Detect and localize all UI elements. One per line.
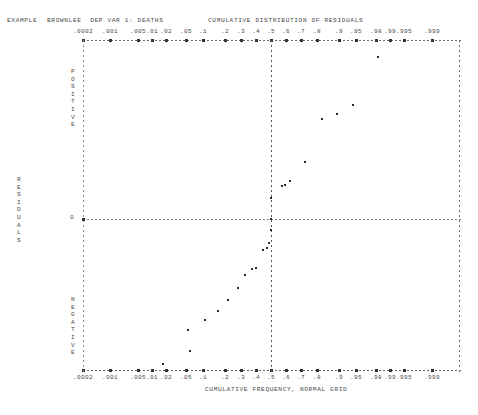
x-tick-bottom-9: .4: [252, 374, 260, 381]
x-tick-top-12: .7: [297, 28, 305, 35]
x-tick-bottom-0: .0002: [73, 374, 93, 381]
data-point: [336, 113, 338, 115]
data-point: [284, 184, 286, 186]
data-point: [352, 104, 354, 106]
x-tick-top-18: .995: [396, 28, 412, 35]
x-tick-bottom-12: .7: [297, 374, 305, 381]
x-tick-bottom-1: .001: [102, 374, 118, 381]
data-point: [268, 242, 270, 244]
x-tick-top-19: .999: [424, 28, 440, 35]
plot-grid: [0, 0, 478, 415]
x-tick-top-15: .95: [350, 28, 362, 35]
data-point: [289, 180, 291, 182]
data-point: [227, 299, 229, 301]
x-tick-bottom-15: .95: [350, 374, 362, 381]
data-point: [270, 229, 272, 231]
x-tick-top-1: .001: [102, 28, 118, 35]
x-tick-top-8: .3: [237, 28, 245, 35]
x-tick-bottom-2: .005: [130, 374, 146, 381]
data-point: [255, 267, 257, 269]
data-point: [304, 161, 306, 163]
x-tick-bottom-19: .999: [424, 374, 440, 381]
normal-probability-plot: EXAMPLE BROWNLEE DEP VAR 1: DEATHS CUMUL…: [0, 0, 478, 415]
x-tick-top-0: .0002: [73, 28, 93, 35]
x-tick-top-17: .99: [384, 28, 396, 35]
x-tick-bottom-13: .8: [313, 374, 321, 381]
x-tick-top-7: .2: [221, 28, 229, 35]
x-tick-top-14: .9: [335, 28, 343, 35]
x-tick-bottom-6: .1: [199, 374, 207, 381]
x-tick-bottom-3: .01: [146, 374, 158, 381]
x-tick-top-2: .005: [130, 28, 146, 35]
x-tick-top-16: .98: [370, 28, 382, 35]
x-tick-bottom-11: .6: [282, 374, 290, 381]
data-point: [266, 247, 268, 249]
data-point: [321, 118, 323, 120]
x-tick-top-9: .4: [252, 28, 260, 35]
data-point: [377, 56, 379, 58]
x-tick-bottom-8: .3: [237, 374, 245, 381]
data-point: [217, 310, 219, 312]
data-point: [251, 268, 253, 270]
data-point: [237, 287, 239, 289]
x-tick-bottom-4: .02: [160, 374, 172, 381]
x-tick-bottom-5: .05: [180, 374, 192, 381]
x-tick-top-3: .01: [146, 28, 158, 35]
data-point: [262, 249, 264, 251]
x-tick-top-10: .5: [267, 28, 275, 35]
data-point: [162, 363, 164, 365]
data-point: [244, 274, 246, 276]
data-point: [270, 197, 272, 199]
data-point: [187, 329, 189, 331]
x-tick-bottom-7: .2: [221, 374, 229, 381]
x-tick-top-11: .6: [282, 28, 290, 35]
x-tick-top-4: .02: [160, 28, 172, 35]
data-point: [281, 185, 283, 187]
x-tick-bottom-10: .5: [267, 374, 275, 381]
x-tick-bottom-18: .995: [396, 374, 412, 381]
x-tick-bottom-17: .99: [384, 374, 396, 381]
data-point: [189, 350, 191, 352]
x-tick-top-5: .05: [180, 28, 192, 35]
x-tick-top-13: .8: [313, 28, 321, 35]
data-point: [270, 218, 272, 220]
x-tick-bottom-16: .98: [370, 374, 382, 381]
x-tick-bottom-14: .9: [335, 374, 343, 381]
data-point: [204, 319, 206, 321]
x-tick-top-6: .1: [199, 28, 207, 35]
